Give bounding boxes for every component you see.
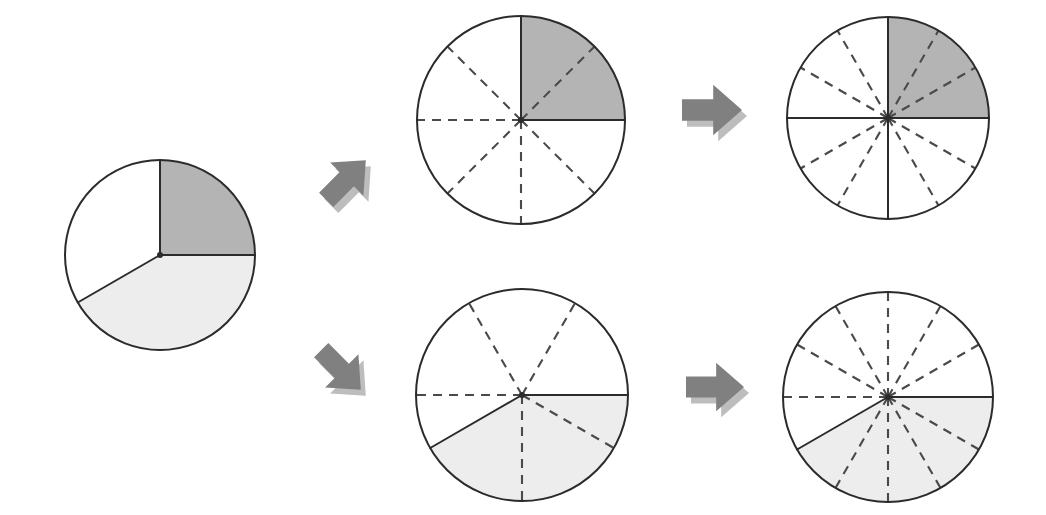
arrow-down-right-icon	[305, 334, 383, 413]
pie-sector-1-of-3	[160, 160, 255, 255]
pie-center-dot	[519, 392, 525, 398]
arrow-body	[305, 334, 378, 407]
pie-center-dot	[885, 115, 891, 121]
pie-bottom-pie-sixths	[416, 289, 628, 501]
pie-center-dot	[157, 252, 163, 258]
pie-center-dot	[885, 394, 891, 400]
arrow-right-bottom-icon	[686, 363, 749, 418]
pie-top-pie-twelfths	[787, 17, 989, 219]
pie-center-dot	[518, 117, 524, 123]
arrow-body	[310, 144, 383, 217]
pie-top-pie-eighths	[417, 16, 625, 224]
arrow-right-top-icon	[682, 85, 747, 141]
pie-source-pie-thirds	[65, 160, 255, 350]
equivalent-fractions-diagram	[0, 0, 1046, 515]
pie-bottom-pie-twelfths	[783, 292, 993, 502]
diagram-canvas	[0, 0, 1046, 515]
arrow-up-right-icon	[310, 144, 388, 223]
